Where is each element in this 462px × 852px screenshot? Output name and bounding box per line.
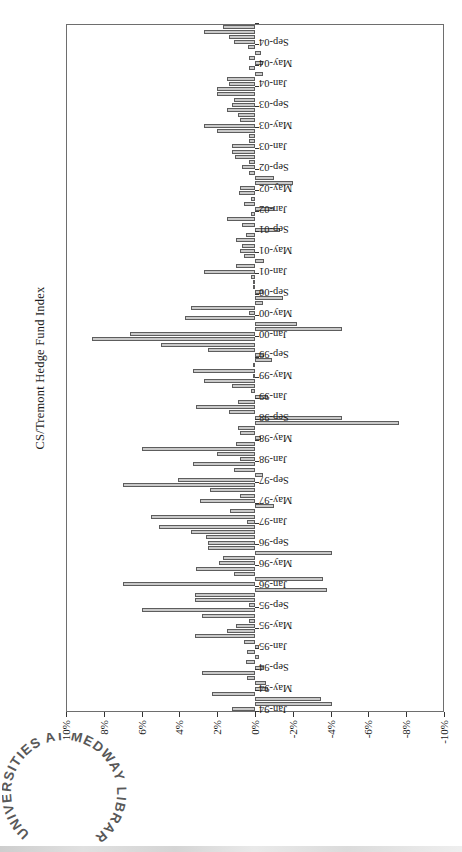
y-axis-label: 0% [249, 720, 261, 756]
bar [239, 191, 255, 195]
bar [229, 35, 255, 39]
bar [232, 384, 255, 388]
bar [247, 520, 255, 524]
bar [193, 369, 255, 373]
bar [123, 483, 255, 487]
x-axis-label: Sep-02 [259, 162, 289, 173]
bar [253, 285, 255, 289]
y-axis-label: -4% [325, 720, 337, 756]
y-axis-tick [331, 712, 332, 717]
bar [255, 551, 332, 555]
x-axis-label: May-04 [259, 58, 292, 69]
x-axis-label: May-98 [259, 433, 292, 444]
x-axis-label: Jan-03 [259, 141, 287, 152]
chart-title: CS/Tremont Hedge Fund Index [33, 24, 48, 712]
x-axis-label: Jan-01 [259, 266, 287, 277]
y-axis-label: 4% [173, 720, 185, 756]
bar [251, 197, 255, 201]
bar [244, 202, 255, 206]
bar [204, 270, 255, 274]
bar [249, 66, 255, 70]
x-axis-label: Jan-94 [259, 704, 287, 715]
y-axis-label: 6% [136, 720, 148, 756]
y-axis-tick [142, 712, 143, 717]
bar [195, 598, 255, 602]
bar [242, 244, 255, 248]
bar [204, 124, 255, 128]
bar [204, 379, 255, 383]
bar [227, 629, 255, 633]
bar [240, 431, 255, 435]
bar [246, 233, 255, 237]
x-axis-label: Jan-98 [259, 454, 287, 465]
x-axis-label: Sep-98 [259, 412, 289, 423]
x-axis-label: May-94 [259, 683, 292, 694]
x-axis-label: Sep-97 [259, 475, 289, 486]
bar [210, 489, 255, 493]
x-axis-label: May-02 [259, 183, 292, 194]
bar [249, 139, 255, 143]
bar [240, 249, 255, 253]
bar [217, 87, 255, 91]
bar [255, 655, 259, 659]
category-axis-tick [255, 23, 259, 24]
bar [255, 301, 263, 305]
bar [242, 223, 255, 227]
bar [234, 98, 255, 102]
bar [235, 155, 255, 159]
bar [255, 259, 264, 263]
bar [123, 582, 255, 586]
x-axis-label: Jan-04 [259, 78, 287, 89]
x-axis-label: Sep-96 [259, 537, 289, 548]
bar [227, 77, 255, 81]
bar [240, 494, 255, 498]
bar [191, 530, 255, 534]
bar [227, 217, 255, 221]
bar [159, 525, 255, 529]
bar [234, 40, 255, 44]
y-axis-tick [444, 712, 445, 717]
bar [251, 389, 255, 393]
bar [223, 556, 255, 560]
bar [244, 254, 255, 258]
x-axis-label: Jan-95 [259, 641, 287, 652]
bar [242, 165, 255, 169]
bar [217, 129, 255, 133]
y-axis-tick [368, 712, 369, 717]
bar [240, 118, 255, 122]
bar [208, 348, 255, 352]
bar [227, 108, 255, 112]
bar [251, 275, 255, 279]
bar [255, 176, 274, 180]
bar [217, 452, 255, 456]
bar [223, 25, 255, 29]
x-axis-label: Sep-95 [259, 600, 289, 611]
y-axis-tick [66, 712, 67, 717]
bar [130, 332, 255, 336]
bar [232, 150, 255, 154]
bar [249, 160, 255, 164]
bar [202, 614, 255, 618]
bar [142, 608, 255, 612]
bar [249, 171, 255, 175]
x-axis-label: May-97 [259, 495, 292, 506]
bar [142, 447, 255, 451]
bar [232, 103, 255, 107]
bar [244, 640, 255, 644]
bar [151, 515, 255, 519]
x-axis-label: Sep-01 [259, 224, 289, 235]
bar [195, 634, 255, 638]
bar [191, 306, 255, 310]
bar [255, 72, 263, 76]
bar [204, 30, 255, 34]
bar [255, 51, 261, 55]
x-axis-label: May-00 [259, 308, 292, 319]
bar [232, 145, 255, 149]
bar [249, 619, 255, 623]
bar [92, 337, 255, 341]
y-axis-label: 2% [211, 720, 223, 756]
scan-edge-artifact [0, 846, 462, 852]
bar [230, 509, 255, 513]
y-axis-label: -2% [287, 720, 299, 756]
x-axis-label: May-03 [259, 120, 292, 131]
